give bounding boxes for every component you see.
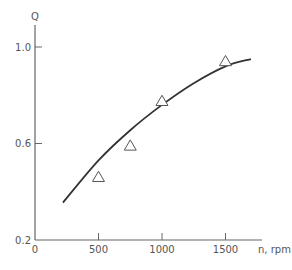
y-axis-label: Q (31, 11, 39, 22)
triangle-marker-icon (124, 140, 136, 150)
triangle-marker-icon (93, 171, 105, 181)
fitted-curve (63, 59, 251, 203)
chart-plot-area: 0500100015000.20.61.0 Q n, rpm (0, 0, 292, 270)
triangle-marker-icon (156, 95, 168, 105)
y-tick-label: 0.2 (15, 235, 31, 246)
x-tick-label: 1500 (213, 244, 238, 255)
chart: 0500100015000.20.61.0 Q n, rpm (0, 0, 292, 270)
x-axis-label: n, rpm (258, 244, 291, 255)
x-tick-label: 1000 (149, 244, 174, 255)
x-tick-label: 0 (32, 244, 38, 255)
triangle-marker-icon (220, 55, 232, 65)
axes (35, 25, 262, 240)
x-tick-label: 500 (89, 244, 108, 255)
y-tick-label: 1.0 (15, 42, 31, 53)
curve-path (63, 59, 251, 203)
y-tick-label: 0.6 (15, 138, 31, 149)
